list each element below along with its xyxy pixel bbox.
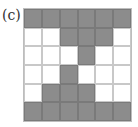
grid-cell-r3-c3 [78, 65, 96, 84]
grid-cell-r1-c4 [95, 28, 113, 47]
grid-cell-r0-c5 [113, 9, 131, 28]
grid-cell-r4-c5 [113, 84, 131, 103]
grid-cell-r1-c5 [113, 28, 131, 47]
grid-cell-r5-c5 [113, 102, 131, 121]
grid-cell-r2-c5 [113, 46, 131, 65]
grid-cell-r1-c2 [60, 28, 78, 47]
pixel-grid [23, 8, 132, 122]
grid-cell-r5-c4 [95, 102, 113, 121]
grid-cell-r5-c1 [42, 102, 60, 121]
grid-cell-r4-c4 [95, 84, 113, 103]
grid-cell-r2-c3 [78, 46, 96, 65]
grid-cell-r3-c0 [24, 65, 42, 84]
grid-cell-r4-c3 [78, 84, 96, 103]
grid-cell-r0-c1 [42, 9, 60, 28]
grid-cell-r0-c2 [60, 9, 78, 28]
grid-cell-r3-c5 [113, 65, 131, 84]
grid-cell-r1-c0 [24, 28, 42, 47]
grid-cell-r3-c4 [95, 65, 113, 84]
grid-cell-r3-c2 [60, 65, 78, 84]
grid-cell-r2-c0 [24, 46, 42, 65]
grid-cell-r5-c2 [60, 102, 78, 121]
grid-cell-r2-c1 [42, 46, 60, 65]
grid-cell-r5-c3 [78, 102, 96, 121]
grid-cell-r0-c3 [78, 9, 96, 28]
grid-cell-r2-c2 [60, 46, 78, 65]
grid-cell-r5-c0 [24, 102, 42, 121]
grid-cell-r4-c1 [42, 84, 60, 103]
grid-cell-r4-c0 [24, 84, 42, 103]
panel-label: (c) [2, 7, 21, 23]
grid-cell-r4-c2 [60, 84, 78, 103]
grid-cell-r0-c0 [24, 9, 42, 28]
grid-cell-r3-c1 [42, 65, 60, 84]
grid-cell-r0-c4 [95, 9, 113, 28]
grid-cell-r1-c1 [42, 28, 60, 47]
grid-cell-r1-c3 [78, 28, 96, 47]
grid-cell-r2-c4 [95, 46, 113, 65]
